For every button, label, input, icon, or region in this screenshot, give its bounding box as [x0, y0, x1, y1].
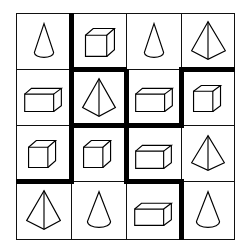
- cell-r3-c2: [71, 125, 127, 182]
- pyramid-icon: [182, 126, 234, 181]
- cone-icon: [72, 182, 126, 239]
- thick-border-h-r1r2-c2: [71, 67, 127, 72]
- cell-r1-c4: [181, 13, 235, 70]
- box-icon: [127, 126, 181, 181]
- cone-icon: [127, 14, 181, 69]
- cell-r1-c3: [126, 13, 182, 70]
- cell-r4-c1: [16, 181, 72, 240]
- cone-icon: [17, 14, 71, 69]
- cube-icon: [72, 126, 126, 181]
- thick-border-v-c3c4-r2: [179, 67, 184, 126]
- cell-r2-c4: [181, 69, 235, 126]
- cell-r4-c2: [71, 181, 127, 240]
- cell-r2-c1: [16, 69, 72, 126]
- box-icon: [17, 70, 71, 125]
- cone-icon: [182, 182, 234, 239]
- box-icon: [127, 70, 181, 125]
- cell-r3-c1: [16, 125, 72, 182]
- thick-border-h-r1r2-c4: [181, 67, 235, 72]
- pyramid-icon: [182, 14, 234, 69]
- cell-r2-c2: [71, 69, 127, 126]
- cell-r3-c4: [181, 125, 235, 182]
- thick-border-h-r3r4-c1: [16, 179, 74, 184]
- cell-r1-c2: [71, 13, 127, 70]
- thick-border-v-c1c2-r1-r3: [69, 13, 74, 184]
- box-icon: [127, 182, 181, 239]
- thick-border-v-c3c4-r4: [179, 179, 184, 240]
- cube-icon: [182, 70, 234, 125]
- shape-grid-puzzle: [16, 13, 235, 240]
- thick-border-h-r3r4-c3: [124, 179, 184, 184]
- cell-r2-c3: [126, 69, 182, 126]
- cell-r4-c4: [181, 181, 235, 240]
- pyramid-icon: [72, 70, 126, 125]
- cell-r4-c3: [126, 181, 182, 240]
- cell-r3-c3: [126, 125, 182, 182]
- cube-icon: [17, 126, 71, 181]
- pyramid-icon: [17, 182, 71, 239]
- cube-icon: [72, 14, 126, 69]
- thick-border-h-r2r3-c2c3: [71, 123, 184, 128]
- cell-r1-c1: [16, 13, 72, 70]
